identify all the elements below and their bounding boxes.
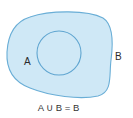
set-b-label: B xyxy=(115,52,122,62)
set-b-region xyxy=(7,12,112,98)
venn-diagram xyxy=(0,0,133,118)
union-equation: A ∪ B = B xyxy=(0,103,117,113)
set-a-label: A xyxy=(24,57,31,67)
